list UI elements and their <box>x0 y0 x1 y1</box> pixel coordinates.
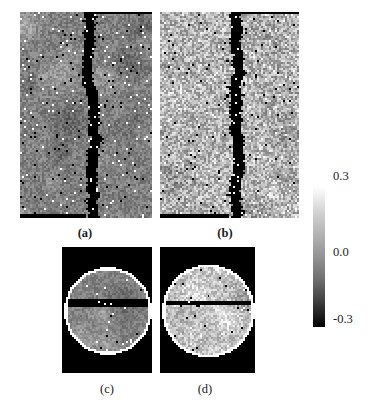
panel-b-raster <box>158 12 299 218</box>
panel-a-raster <box>18 12 152 218</box>
colorbar-tick-mid: 0.0 <box>333 246 349 259</box>
image-panel-b <box>158 12 299 218</box>
image-panel-c <box>62 247 152 373</box>
panel-c-raster <box>62 247 152 373</box>
colorbar-tick-max: 0.3 <box>333 170 349 183</box>
colorbar-tick-min: -0.3 <box>333 313 353 326</box>
panel-d-raster <box>160 247 255 373</box>
image-panel-d <box>160 247 255 373</box>
panel-caption-a: (a) <box>60 227 110 240</box>
panel-caption-b: (b) <box>200 227 250 240</box>
colorbar-gradient <box>313 186 325 327</box>
colorbar: 0.3 0.0 -0.3 <box>305 165 379 335</box>
panel-caption-c: (c) <box>82 383 132 396</box>
image-panel-a <box>18 12 152 218</box>
figure-canvas: (a) (b) (c) (d) 0.3 0.0 -0.3 <box>0 0 379 407</box>
panel-caption-d: (d) <box>180 383 230 396</box>
